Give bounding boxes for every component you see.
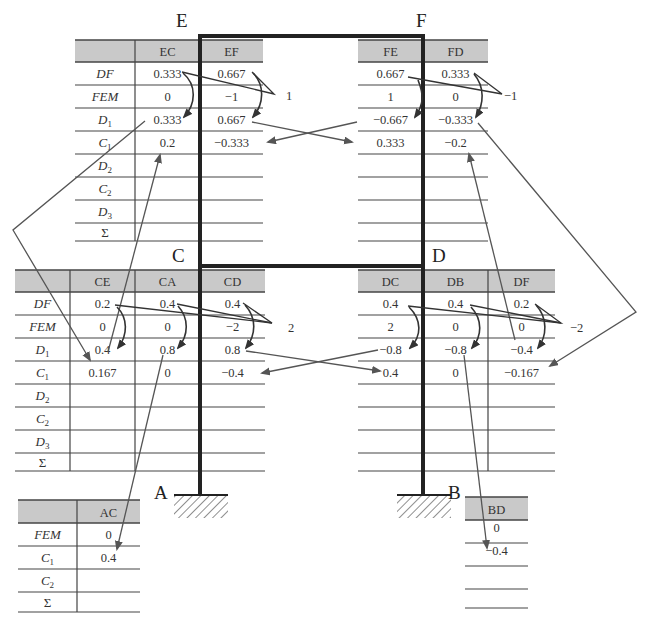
joint-f-cell-fe: 0.333 — [376, 136, 404, 150]
unbalanced-moment-F: −1 — [504, 89, 517, 103]
joint-e-cell-ef: 0.667 — [217, 67, 245, 81]
joint-f-col-header-fe: FE — [383, 45, 398, 59]
joint-f-cell-fe: 0.667 — [376, 67, 404, 81]
joint-c-row-label: FEM — [28, 319, 57, 334]
joint-e-cell-ec: 0.2 — [160, 136, 176, 150]
node-label-A: A — [154, 482, 168, 503]
joint-c-row-label: D1 — [35, 342, 50, 359]
joint-c-cell-ce: 0.167 — [88, 366, 116, 380]
distribution-arrow-DC — [409, 307, 419, 348]
carryover-EF-to-FE — [252, 122, 352, 142]
joint-e-col-header-ef: EF — [224, 45, 239, 59]
joint-c-cell-ca: 0.4 — [160, 297, 176, 311]
unbalanced-moment-D: −2 — [570, 321, 583, 335]
joint-c-row-label: D2 — [35, 388, 50, 405]
support-a-cell-ac: 0 — [105, 528, 111, 542]
joint-d-cell-df: −0.167 — [504, 366, 539, 380]
joint-e-cell-ec: 0.333 — [153, 113, 181, 127]
joint-d-cell-dc: 0.4 — [383, 366, 399, 380]
joint-f-cell-fe: 1 — [387, 90, 393, 104]
distribution-arrow-CD — [245, 305, 254, 348]
joint-e-cell-ef: 0.667 — [217, 113, 245, 127]
joint-d-cell-df: −0.4 — [510, 343, 533, 357]
support-b-col-header-bd: BD — [488, 503, 505, 517]
joint-d-cell-df: 0 — [518, 320, 524, 334]
support-a-row-label: C1 — [41, 550, 54, 567]
joint-d-col-header-df: DF — [514, 275, 530, 289]
joint-d-col-header-dc: DC — [382, 275, 399, 289]
carryover-FE-to-EF — [268, 122, 357, 142]
joint-e-cell-ec: 0 — [164, 90, 170, 104]
joint-c-cell-ce: 0.2 — [95, 297, 111, 311]
joint-e-row-label: DF — [95, 66, 114, 81]
node-label-D: D — [432, 245, 446, 266]
joint-c-cell-cd: −2 — [226, 320, 239, 334]
joint-e-col-header-ec: EC — [160, 45, 176, 59]
joint-c-cell-cd: 0.4 — [225, 297, 241, 311]
joint-c-col-header-ca: CA — [159, 275, 176, 289]
node-label-B: B — [448, 482, 461, 503]
distribution-arrow-DF — [536, 305, 545, 348]
joint-d-cell-dc: 2 — [387, 320, 393, 334]
distribution-arrow-FD — [474, 74, 482, 117]
moment-distribution-diagram: ECEFDF0.3330.667FEM0−1D10.3330.667C10.2−… — [0, 0, 645, 628]
node-label-E: E — [176, 10, 188, 31]
joint-c-row-label: C1 — [36, 365, 49, 382]
joint-c-col-header-cd: CD — [224, 275, 241, 289]
joint-c-row-label: D3 — [35, 434, 50, 451]
distribution-arrow-EC — [183, 73, 193, 117]
joint-d-cell-db: −0.8 — [444, 343, 467, 357]
support-b-cell-bd: −0.4 — [485, 544, 508, 558]
joint-c-cell-ce: 0 — [99, 320, 105, 334]
joint-c-row-label: DF — [33, 296, 52, 311]
joint-e-row-label: C2 — [98, 181, 111, 198]
support-B-hatch — [397, 496, 451, 518]
support-a-header-cell — [18, 500, 77, 523]
support-a-row-label: FEM — [33, 527, 62, 542]
support-a-cell-ac: 0.4 — [101, 551, 117, 565]
support-a-col-header-ac: AC — [100, 506, 117, 520]
distribution-bracket-C — [115, 303, 272, 323]
joint-d-col-header-db: DB — [447, 275, 464, 289]
joint-e-row-label: D2 — [97, 158, 112, 175]
joint-d-cell-db: 0 — [452, 320, 458, 334]
joint-e-cell-ef: −1 — [225, 90, 238, 104]
joint-c-cell-ca: 0 — [164, 366, 170, 380]
support-a-row-label: Σ — [44, 595, 52, 610]
joint-f-cell-fd: 0 — [452, 90, 458, 104]
joint-e-header-cell — [75, 40, 135, 62]
joint-c-cell-cd: 0.8 — [225, 343, 241, 357]
joint-d-cell-db: 0 — [452, 366, 458, 380]
joint-e-cell-ec: 0.333 — [153, 67, 181, 81]
unbalanced-moment-C: 2 — [288, 321, 294, 335]
support-b-cell-bd: 0 — [493, 521, 499, 535]
carryover-CE-to-EC — [108, 155, 160, 352]
joint-c-cell-ca: 0.8 — [160, 343, 176, 357]
node-label-F: F — [416, 10, 427, 31]
joint-e-row-label: FEM — [91, 89, 120, 104]
joint-f-cell-fe: −0.667 — [373, 113, 408, 127]
node-label-C: C — [172, 245, 185, 266]
joint-e-row-label: D3 — [97, 204, 112, 221]
support-a-row-label: C2 — [41, 573, 54, 590]
joint-f-cell-fd: 0.333 — [441, 67, 469, 81]
joint-c-row-label: C2 — [36, 411, 49, 428]
joint-d-cell-db: 0.4 — [448, 297, 464, 311]
carryover-FD-to-DF — [478, 123, 636, 366]
joint-d-cell-dc: −0.8 — [379, 343, 402, 357]
joint-f-cell-fd: −0.333 — [438, 113, 473, 127]
unbalanced-moment-E: 1 — [286, 89, 292, 103]
joint-c-col-header-ce: CE — [95, 275, 111, 289]
joint-f-cell-fd: −0.2 — [444, 136, 467, 150]
support-A-hatch — [174, 496, 228, 518]
joint-e-row-label: D1 — [97, 112, 112, 129]
joint-e-row-label: Σ — [101, 225, 109, 240]
joint-c-row-label: Σ — [39, 455, 47, 470]
joint-c-cell-cd: −0.4 — [221, 366, 244, 380]
joint-d-cell-df: 0.2 — [514, 297, 530, 311]
joint-c-cell-ca: 0 — [164, 320, 170, 334]
joint-d-cell-dc: 0.4 — [383, 297, 399, 311]
joint-f-col-header-fd: FD — [448, 45, 464, 59]
joint-e-cell-ef: −0.333 — [214, 136, 249, 150]
